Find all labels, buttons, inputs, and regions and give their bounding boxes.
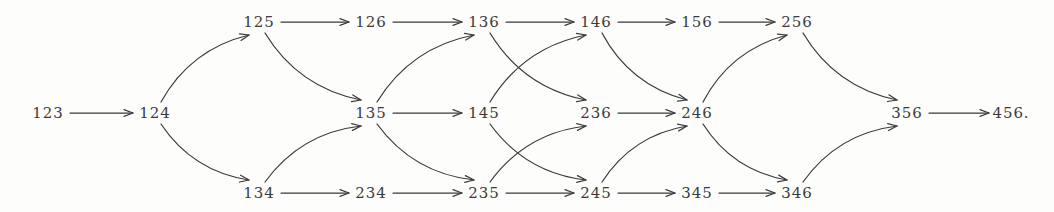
node-146: 146 bbox=[580, 15, 611, 30]
edge-135-to-136 bbox=[377, 35, 474, 102]
node-156: 156 bbox=[681, 15, 712, 30]
node-126: 126 bbox=[355, 15, 386, 30]
edge-246-to-256 bbox=[703, 35, 787, 102]
edge-235-to-236 bbox=[490, 126, 586, 182]
edge-146-to-246 bbox=[602, 33, 687, 100]
node-235: 235 bbox=[468, 186, 499, 201]
edge-346-to-356 bbox=[803, 126, 897, 182]
node-256: 256 bbox=[781, 15, 812, 30]
node-234: 234 bbox=[355, 186, 386, 201]
edge-256-to-356 bbox=[803, 33, 897, 100]
edge-245-to-246 bbox=[602, 126, 687, 182]
node-125: 125 bbox=[243, 15, 274, 30]
node-356: 356 bbox=[891, 106, 922, 121]
edge-125-to-135 bbox=[265, 33, 361, 100]
edge-246-to-346 bbox=[703, 124, 787, 180]
node-346: 346 bbox=[781, 186, 812, 201]
edge-124-to-125 bbox=[161, 35, 249, 102]
lattice-diagram: 1231241251341261352341361452351462362451… bbox=[0, 0, 1054, 212]
node-123: 123 bbox=[32, 106, 63, 121]
node-145: 145 bbox=[468, 106, 499, 121]
node-246: 246 bbox=[681, 106, 712, 121]
edge-124-to-134 bbox=[161, 124, 249, 180]
edge-135-to-235 bbox=[377, 124, 474, 180]
edge-136-to-236 bbox=[490, 33, 586, 100]
node-136: 136 bbox=[468, 15, 499, 30]
node-124: 124 bbox=[139, 106, 170, 121]
edge-145-to-245 bbox=[490, 124, 586, 180]
edge-134-to-135 bbox=[265, 126, 361, 182]
node-456: 456. bbox=[993, 106, 1030, 121]
edge-145-to-146 bbox=[490, 35, 586, 102]
node-245: 245 bbox=[580, 186, 611, 201]
node-135: 135 bbox=[355, 106, 386, 121]
node-236: 236 bbox=[580, 106, 611, 121]
node-345: 345 bbox=[681, 186, 712, 201]
node-134: 134 bbox=[243, 186, 274, 201]
